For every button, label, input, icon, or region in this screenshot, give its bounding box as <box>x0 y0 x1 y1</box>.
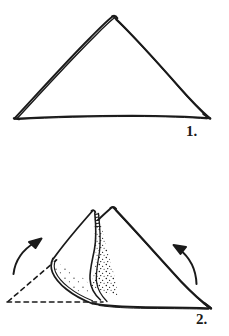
fold-arrow-left-shaft <box>14 242 36 274</box>
main-apex-left-edge <box>98 208 111 220</box>
step-number-1: 1. <box>186 124 197 139</box>
triangle-left-corner <box>14 118 19 119</box>
fold-arrow-left <box>14 239 42 275</box>
diagram-sheet: 1. <box>0 0 229 336</box>
fold-arrow-left-head <box>29 239 42 249</box>
left-peak-edge <box>54 212 93 259</box>
figure-step-2-drawing <box>0 186 229 336</box>
main-right-slope-secondary <box>116 211 209 308</box>
figure-step-2 <box>0 186 229 336</box>
fold-arrow-right-shaft <box>179 249 197 284</box>
main-right-slope <box>114 208 211 308</box>
step-number-2: 2. <box>196 312 207 327</box>
triangle-right-edge-secondary <box>116 20 208 118</box>
figure2-base-edge <box>93 304 211 309</box>
left-peak-tip <box>92 210 96 212</box>
triangle-left-edge-inner <box>18 19 114 119</box>
